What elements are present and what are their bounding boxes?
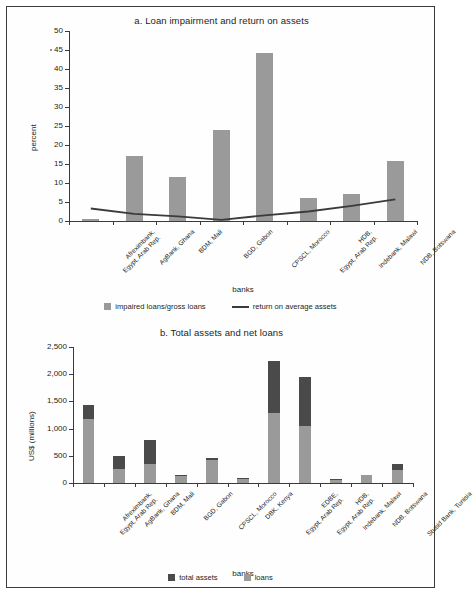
x-axis-tick — [382, 483, 383, 487]
x-axis-line — [73, 483, 413, 484]
stacked-bar-loans — [392, 470, 404, 483]
y-axis-tick-label: 25 — [21, 122, 63, 130]
category-label-line: Indebank, Malawi — [377, 228, 419, 270]
x-axis-title: banks — [69, 285, 417, 294]
y-axis-tick-label: 0 — [25, 479, 67, 487]
category-label-line: BGD, Gabon — [202, 490, 234, 522]
legend-swatch-icon — [104, 303, 111, 310]
x-axis-tick — [320, 483, 321, 487]
x-axis-category-label: Afreximbank,Egypt, Arab Rep. — [115, 228, 161, 274]
x-axis-tick — [417, 221, 418, 225]
y-axis-tick — [69, 374, 73, 375]
y-axis-tick-label: 30 — [21, 103, 63, 111]
y-axis-tick-label: 1,000 — [25, 425, 67, 433]
y-axis-tick — [69, 456, 73, 457]
y-axis-tick — [69, 401, 73, 402]
x-axis-category-label: Stusid Bank, Tunisia — [425, 490, 473, 538]
stacked-bar-loans — [299, 426, 311, 483]
stacked-bar-loans — [237, 479, 249, 483]
x-axis-tick — [135, 483, 136, 487]
stacked-bar-loans — [175, 476, 187, 483]
figure-container: a. Loan impairment and return on assets … — [6, 6, 435, 588]
legend-label: loans — [255, 573, 273, 582]
legend-swatch-icon — [168, 574, 175, 581]
chart-panel-a: a. Loan impairment and return on assets … — [7, 11, 436, 309]
stacked-bar-total-assets — [83, 405, 95, 419]
stacked-bar-loans — [144, 464, 156, 483]
x-axis-category-label: NDB, Botswana — [419, 228, 457, 266]
y-axis-tick-label: 45 — [21, 46, 63, 54]
return-on-assets-line — [69, 31, 417, 223]
y-axis-tick-label: 10 — [21, 179, 63, 187]
chart-b-legend: total assets loans — [7, 573, 434, 582]
chart-a-title: a. Loan impairment and return on assets — [7, 15, 436, 26]
x-axis-tick — [228, 483, 229, 487]
x-axis-tick — [258, 483, 259, 487]
chart-a-plot-area: 05101520253035404550Afreximbank,Egypt, A… — [69, 31, 417, 221]
stacked-bar-total-assets — [299, 377, 311, 425]
x-axis-category-label: HDB,Egypt, Arab Rep. — [333, 228, 379, 274]
x-axis-tick — [289, 483, 290, 487]
y-axis-tick-label: 35 — [21, 84, 63, 92]
x-axis-category-label: AgBank, Ghana — [158, 228, 196, 266]
stacked-bar-loans — [361, 475, 373, 483]
y-axis-line — [73, 347, 74, 483]
chart-a-legend: impaired loans/gross loans return on ave… — [7, 302, 434, 311]
legend-line-icon — [232, 306, 249, 308]
stacked-bar-loans — [268, 413, 280, 483]
stacked-bar-total-assets — [113, 456, 125, 470]
y-axis-tick-label: 20 — [21, 141, 63, 149]
y-axis-tick-label: 1,500 — [25, 397, 67, 405]
x-axis-tick — [166, 483, 167, 487]
legend-label: total assets — [179, 573, 217, 582]
y-axis-tick-label: 40 — [21, 65, 63, 73]
x-axis-tick — [104, 483, 105, 487]
y-axis-tick-label: 2,500 — [25, 343, 67, 351]
stacked-bar-total-assets — [268, 361, 280, 413]
x-axis-category-label: BGD, Gabon — [242, 228, 274, 260]
stacked-bar-loans — [83, 419, 95, 483]
legend-item-return-on-assets: return on average assets — [232, 302, 337, 311]
x-axis-category-label: CPSCL, Morocco — [290, 228, 331, 269]
x-axis-tick — [413, 483, 414, 487]
category-label-line: BGD, Gabon — [242, 228, 274, 260]
stacked-bar-total-assets — [144, 440, 156, 464]
chart-panel-b: b. Total assets and net loans US$ (milli… — [7, 313, 436, 589]
y-axis-tick-label: 0 — [21, 217, 63, 225]
y-axis-tick — [69, 347, 73, 348]
category-label-line: BDM, Mali — [197, 228, 224, 255]
chart-b-plot-area: 05001,0001,5002,0002,500Afreximbank,Egyp… — [73, 347, 413, 483]
legend-item-impaired-loans: impaired loans/gross loans — [104, 302, 205, 311]
chart-b-title: b. Total assets and net loans — [7, 327, 436, 338]
x-axis-category-label: BGD, Gabon — [202, 490, 234, 522]
category-label-line: NDB, Botswana — [419, 228, 457, 266]
category-label-line: Stusid Bank, Tunisia — [425, 490, 473, 538]
y-axis-tick-label: 50 — [21, 27, 63, 35]
stacked-bar-loans — [206, 460, 218, 483]
category-label-line: AgBank, Ghana — [158, 228, 196, 266]
x-axis-category-label: BDM, Mali — [197, 228, 224, 255]
legend-item-loans: loans — [244, 573, 273, 582]
x-axis-tick — [351, 483, 352, 487]
x-axis-tick — [197, 483, 198, 487]
x-axis-category-label: Indebank, Malawi — [377, 228, 419, 270]
legend-swatch-icon — [244, 574, 251, 581]
category-label-line: CPSCL, Morocco — [290, 228, 331, 269]
stacked-bar-loans — [330, 480, 342, 483]
y-axis-tick — [69, 429, 73, 430]
legend-item-total-assets: total assets — [168, 573, 217, 582]
y-axis-tick-label: 15 — [21, 160, 63, 168]
y-axis-tick-label: 500 — [25, 452, 67, 460]
y-axis-tick-label: 5 — [21, 198, 63, 206]
legend-label: impaired loans/gross loans — [115, 302, 205, 311]
stacked-bar-loans — [113, 469, 125, 483]
legend-label: return on average assets — [253, 302, 337, 311]
y-axis-tick-label: 2,000 — [25, 370, 67, 378]
x-axis-tick — [73, 483, 74, 487]
